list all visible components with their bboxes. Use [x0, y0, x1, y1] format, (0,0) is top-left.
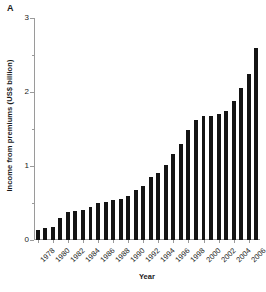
bar	[239, 88, 243, 240]
x-axis-tick	[173, 240, 174, 243]
bar	[58, 218, 62, 240]
y-axis-tick	[30, 92, 34, 93]
y-axis-tick-label: 0	[25, 236, 29, 244]
bar	[51, 227, 55, 240]
bar	[73, 211, 77, 240]
plot-area: 0123 19781980198219841986198819901992199…	[34, 18, 260, 240]
figure-panel: A Income from premiums (US$ billion) 012…	[0, 0, 266, 292]
x-axis-tick	[68, 240, 69, 243]
bar	[89, 207, 93, 240]
y-axis-title: Income from premiums (US$ billion)	[5, 59, 14, 191]
bar	[232, 101, 236, 240]
bar	[194, 120, 198, 240]
bar	[134, 190, 138, 240]
bar	[247, 74, 251, 241]
bar	[96, 203, 100, 240]
bar	[156, 173, 160, 240]
bar	[36, 230, 40, 240]
y-axis-minor-tick	[32, 55, 35, 56]
x-axis-tick-label: 1980	[54, 247, 71, 264]
x-axis-tick	[204, 240, 205, 243]
y-axis-title-container: Income from premiums (US$ billion)	[0, 0, 18, 250]
x-axis-tick-label: 1986	[99, 247, 116, 264]
bar	[66, 212, 70, 240]
bar	[141, 186, 145, 240]
bar	[119, 199, 123, 240]
bar	[186, 130, 190, 240]
y-axis-line	[34, 18, 35, 240]
x-axis-tick-label: 1992	[144, 247, 161, 264]
bar	[126, 196, 130, 240]
x-axis-tick-label: 1984	[84, 247, 101, 264]
x-axis-tick-label: 1994	[159, 247, 176, 264]
x-axis-tick	[38, 240, 39, 243]
bar	[164, 165, 168, 240]
x-axis-tick-label: 1990	[129, 247, 146, 264]
y-axis-minor-tick	[32, 203, 35, 204]
x-axis-title: Year	[34, 272, 260, 281]
x-axis-tick-label: 1998	[189, 247, 206, 264]
bar	[171, 154, 175, 240]
y-axis-tick-label: 1	[25, 162, 29, 170]
x-axis-tick	[83, 240, 84, 243]
x-axis-tick-label: 1988	[114, 247, 131, 264]
bar	[209, 116, 213, 240]
x-axis-tick-label: 1982	[69, 247, 86, 264]
x-axis-tick	[249, 240, 250, 243]
y-axis-tick-label: 2	[25, 88, 29, 96]
x-axis-tick	[143, 240, 144, 243]
x-axis-tick	[128, 240, 129, 243]
y-axis-tick-label: 3	[25, 14, 29, 22]
bar	[224, 111, 228, 241]
y-axis-tick	[30, 18, 34, 19]
x-axis-tick	[219, 240, 220, 243]
x-axis-tick	[188, 240, 189, 243]
bar	[179, 144, 183, 240]
x-axis-tick	[53, 240, 54, 243]
bar	[81, 210, 85, 240]
bar	[149, 177, 153, 240]
bar	[43, 228, 47, 240]
bar	[111, 200, 115, 240]
bar	[254, 48, 258, 240]
x-axis-tick-label: 2000	[205, 247, 222, 264]
y-axis-tick	[30, 240, 34, 241]
y-axis-minor-tick	[32, 129, 35, 130]
x-axis-tick-label: 2004	[235, 247, 252, 264]
x-axis-tick	[158, 240, 159, 243]
bar	[217, 114, 221, 240]
x-axis-tick-label: 1978	[39, 247, 56, 264]
bar	[202, 116, 206, 240]
y-axis-tick	[30, 166, 34, 167]
x-axis-tick	[234, 240, 235, 243]
x-axis-tick-label: 2002	[220, 247, 237, 264]
x-axis-tick-label: 2006	[250, 247, 266, 264]
bar	[104, 202, 108, 240]
x-axis-tick	[113, 240, 114, 243]
x-axis-tick	[98, 240, 99, 243]
